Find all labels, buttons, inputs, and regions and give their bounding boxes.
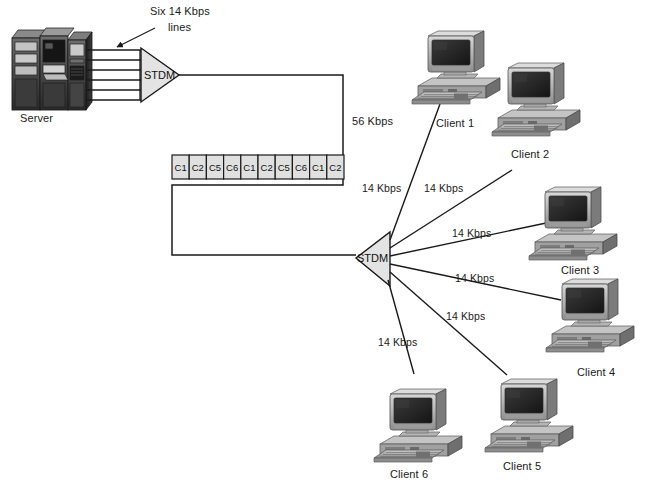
frame-cell-label: C2 (192, 162, 204, 173)
trunk-rate-label: 56 Kbps (352, 115, 393, 127)
link-line-client-1 (390, 104, 440, 240)
frame-cell-label: C1 (175, 162, 187, 173)
client-2-icon (492, 63, 580, 136)
six-lines-annotation-line2: lines (168, 21, 191, 33)
stdm-left-mux: STDM (141, 48, 179, 102)
client-2-label: Client 2 (511, 148, 549, 160)
frame-cell-label: C6 (295, 162, 307, 173)
client-5-icon (485, 379, 573, 452)
client-3-label: Client 3 (561, 264, 599, 276)
client-1-label: Client 1 (436, 117, 474, 129)
six-lines-arrow (117, 28, 155, 47)
client-4-icon (546, 279, 634, 352)
stdm-left-label: STDM (144, 69, 175, 81)
link-label-client-5: 14 Kbps (446, 310, 485, 322)
frame-cell-label: C5 (278, 162, 290, 173)
client-6-label: Client 6 (390, 468, 428, 480)
server-label: Server (20, 112, 53, 124)
link-label-client-3: 14 Kbps (452, 227, 491, 239)
link-line-client-5 (390, 272, 507, 375)
stdm-right-mux: STDM (356, 232, 390, 286)
six-lines-annotation-line1: Six 14 Kbps (150, 5, 210, 17)
frame-cell-label: C5 (209, 162, 221, 173)
server-icon (12, 28, 92, 110)
link-line-client-6 (388, 280, 414, 374)
frame-cell-label: C2 (329, 162, 341, 173)
multiplexed-frame: C1C2C5C6C1C2C5C6C1C2 (172, 155, 344, 179)
link-label-client-2: 14 Kbps (424, 182, 463, 194)
diagram-graphics: STDM C1C2C5C6C1C2C5C6C1C2 STDM (0, 0, 650, 490)
client-1-icon (412, 31, 500, 104)
frame-cell-label: C2 (261, 162, 273, 173)
frame-cell-label: C6 (226, 162, 238, 173)
link-label-client-1: 14 Kbps (362, 182, 401, 194)
stdm-right-label: STDM (357, 252, 388, 264)
client-6-icon (374, 389, 462, 462)
six-access-lines (86, 50, 141, 100)
client-links (388, 104, 561, 375)
client-5-label: Client 5 (503, 460, 541, 472)
link-label-client-4: 14 Kbps (455, 272, 494, 284)
diagram-canvas: STDM C1C2C5C6C1C2C5C6C1C2 STDM (0, 0, 650, 490)
client-4-label: Client 4 (577, 366, 615, 378)
frame-cell-label: C1 (243, 162, 255, 173)
link-label-client-6: 14 Kbps (378, 336, 417, 348)
frame-cell-label: C1 (312, 162, 324, 173)
